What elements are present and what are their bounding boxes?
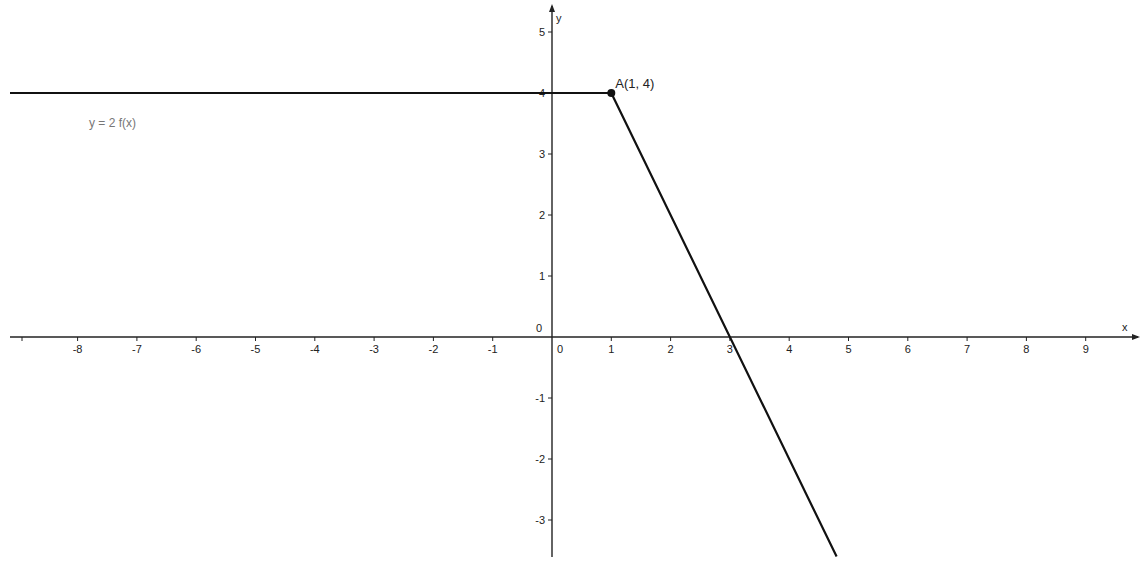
x-tick-label: 7 — [964, 343, 970, 355]
x-tick-label: 4 — [786, 343, 792, 355]
graph-canvas: -8-7-6-5-4-3-2-100123456789-3-2-112345 x… — [0, 0, 1144, 572]
y-tick-label: 2 — [539, 209, 545, 221]
x-tick-label: -3 — [369, 343, 379, 355]
y-tick-label: 0 — [536, 322, 542, 334]
graph-line — [10, 93, 837, 557]
x-tick-label: -1 — [488, 343, 498, 355]
x-tick-label: 5 — [845, 343, 851, 355]
x-tick-label: -5 — [251, 343, 261, 355]
function-graph — [10, 93, 837, 557]
x-tick-label: -8 — [73, 343, 83, 355]
x-tick-label: 1 — [608, 343, 614, 355]
x-axis-arrow-icon — [1132, 334, 1140, 340]
x-tick-label: 6 — [905, 343, 911, 355]
y-axis-arrow-icon — [549, 4, 555, 12]
y-tick-label: -3 — [535, 514, 545, 526]
point-a[interactable] — [607, 89, 615, 97]
tick-marks: -8-7-6-5-4-3-2-100123456789-3-2-112345 — [22, 26, 1089, 526]
x-tick-label: -4 — [310, 343, 320, 355]
coordinate-plane: -8-7-6-5-4-3-2-100123456789-3-2-112345 x… — [0, 0, 1144, 572]
point-a-label: A(1, 4) — [615, 76, 654, 91]
y-axis-label: y — [556, 12, 562, 24]
y-tick-label: 1 — [539, 270, 545, 282]
x-tick-label: 8 — [1023, 343, 1029, 355]
x-tick-label: 3 — [727, 343, 733, 355]
x-tick-label: -6 — [191, 343, 201, 355]
x-tick-label: 2 — [668, 343, 674, 355]
y-tick-label: 3 — [539, 148, 545, 160]
function-label: y = 2 f(x) — [89, 116, 136, 130]
axes — [10, 4, 1140, 557]
x-tick-label: -2 — [429, 343, 439, 355]
x-axis-label: x — [1122, 321, 1128, 333]
y-tick-label: -2 — [535, 453, 545, 465]
x-tick-label: 9 — [1083, 343, 1089, 355]
x-tick-label: -7 — [132, 343, 142, 355]
points — [607, 89, 615, 97]
y-tick-label: -1 — [535, 392, 545, 404]
x-tick-label: 0 — [557, 343, 563, 355]
y-tick-label: 5 — [539, 26, 545, 38]
